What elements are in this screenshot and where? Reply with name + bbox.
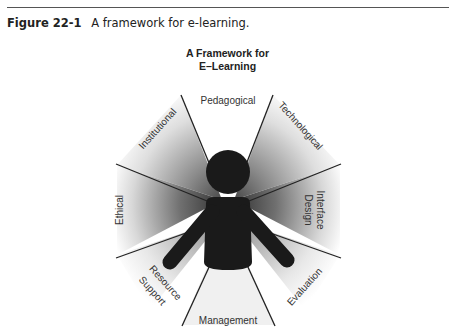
label-pedagogical: Pedagogical xyxy=(200,95,255,106)
label-design: Design xyxy=(303,194,314,225)
label-interface: Interface xyxy=(315,191,326,230)
label-management: Management xyxy=(199,315,258,326)
framework-diagram: Pedagogical Technological Interface Desi… xyxy=(0,0,455,335)
person-head xyxy=(206,150,250,194)
person-collar xyxy=(221,194,235,197)
label-ethical: Ethical xyxy=(114,195,125,225)
